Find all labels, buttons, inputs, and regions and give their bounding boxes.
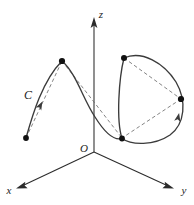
z-axis [91, 17, 98, 152]
partition-point-3 [121, 55, 127, 61]
space-curve-figure: z O x y C [0, 0, 194, 205]
x-axis-arrowhead [16, 182, 28, 189]
x-axis-label: x [6, 184, 12, 196]
origin-label: O [80, 142, 88, 154]
y-axis [94, 152, 174, 189]
x-axis [16, 152, 94, 189]
chord-segment [122, 99, 181, 138]
y-axis-line [94, 152, 166, 185]
space-curve-c [26, 61, 122, 139]
curve-group [26, 56, 183, 144]
x-axis-line [24, 152, 94, 185]
partition-point-4 [178, 96, 184, 102]
chord-group [26, 58, 181, 138]
direction-arrow-group [36, 100, 183, 122]
y-axis-label: y [181, 184, 187, 196]
partition-point-1 [59, 58, 65, 64]
y-axis-arrowhead [162, 182, 174, 189]
labels-group: z O x y C [6, 8, 187, 196]
figure-container: z O x y C [0, 0, 194, 205]
space-curve-c-loop [119, 56, 183, 144]
partition-point-2 [119, 136, 125, 142]
curve-label-c: C [24, 88, 33, 102]
chord-segment [124, 58, 181, 99]
axes-group [16, 17, 174, 189]
partition-point-0 [23, 135, 29, 141]
z-axis-label: z [98, 8, 104, 20]
